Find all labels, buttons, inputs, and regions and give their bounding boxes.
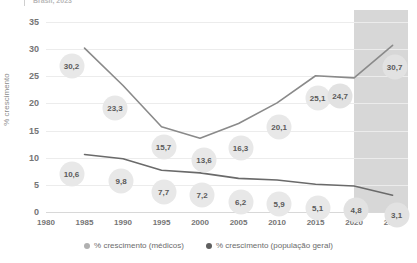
y-axis-tick-label: 10 bbox=[29, 153, 39, 163]
legend-item[interactable]: % crescimento (médicos) bbox=[84, 241, 184, 250]
legend-dot-icon bbox=[84, 243, 90, 249]
x-axis-tick-label: 1995 bbox=[153, 218, 171, 227]
data-label-bubble: 30,7 bbox=[382, 55, 407, 80]
data-label-bubble: 9,8 bbox=[109, 168, 134, 193]
chart-legend: % crescimento (médicos)% crescimento (po… bbox=[0, 241, 417, 250]
data-label-bubble: 13,6 bbox=[192, 148, 217, 173]
y-axis-title: % crescimento bbox=[2, 73, 11, 125]
data-label-bubble: 3,1 bbox=[384, 203, 409, 228]
y-axis-tick-label: 15 bbox=[29, 126, 39, 136]
data-label-bubble: 10,6 bbox=[59, 162, 84, 187]
data-label-bubble: 15,7 bbox=[151, 134, 176, 159]
y-axis-tick-label: 0 bbox=[34, 207, 39, 217]
data-label-bubble: 24,7 bbox=[328, 83, 353, 108]
data-label-bubble: 5,1 bbox=[305, 196, 330, 221]
y-axis-tick-label: 25 bbox=[29, 71, 39, 81]
x-axis-tick-label: 1980 bbox=[37, 218, 55, 227]
header-caption: Brasil, 2023 bbox=[33, 0, 72, 4]
data-label-bubble: 20,1 bbox=[267, 114, 292, 139]
data-label-bubble: 5,9 bbox=[267, 191, 292, 216]
header-strip: Brasil, 2023 bbox=[0, 0, 417, 9]
data-label-bubble: 30,2 bbox=[59, 54, 84, 79]
y-axis-tick-label: 5 bbox=[34, 180, 39, 190]
y-axis-tick-label: 30 bbox=[29, 44, 39, 54]
series-lines bbox=[46, 22, 408, 212]
plot-area: 05101520253035 1980198519901995200020052… bbox=[46, 22, 408, 212]
x-axis-tick-label: 1990 bbox=[114, 218, 132, 227]
legend-dot-icon bbox=[206, 243, 212, 249]
data-label-bubble: 23,3 bbox=[103, 95, 128, 120]
data-label-bubble: 16,3 bbox=[228, 135, 253, 160]
data-label-bubble: 7,2 bbox=[190, 182, 215, 207]
data-label-bubble: 25,1 bbox=[305, 85, 330, 110]
data-label-bubble: 6,2 bbox=[228, 190, 253, 215]
legend-item[interactable]: % crescimento (população geral) bbox=[206, 241, 333, 250]
x-axis-tick-label: 2010 bbox=[268, 218, 286, 227]
y-axis-tick-label: 20 bbox=[29, 98, 39, 108]
data-label-bubble: 4,8 bbox=[344, 197, 369, 222]
legend-label: % crescimento (médicos) bbox=[94, 241, 184, 250]
y-axis-tick-label: 35 bbox=[29, 17, 39, 27]
x-axis-tick-label: 2000 bbox=[191, 218, 209, 227]
x-axis-tick-label: 2005 bbox=[230, 218, 248, 227]
x-axis-tick-label: 1985 bbox=[76, 218, 94, 227]
header-divider bbox=[24, 0, 25, 6]
data-label-bubble: 7,7 bbox=[151, 180, 176, 205]
legend-label: % crescimento (população geral) bbox=[216, 241, 333, 250]
chart-container: Brasil, 2023 % crescimento 0510152025303… bbox=[0, 0, 417, 263]
